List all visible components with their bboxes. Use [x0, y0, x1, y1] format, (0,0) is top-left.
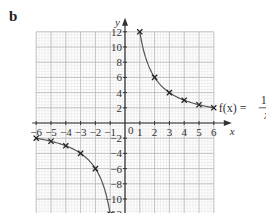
origin-label: 0 — [128, 124, 134, 136]
x-tick-label: 3 — [167, 126, 173, 138]
x-tick-label: −4 — [60, 126, 72, 138]
y-tick-label: 12 — [111, 26, 122, 38]
x-tick-label: −2 — [90, 126, 102, 138]
function-label-denominator: x — [263, 108, 266, 122]
x-tick-label: −6 — [30, 126, 42, 138]
y-tick-label: −2 — [110, 132, 122, 144]
x-tick-label: 6 — [211, 126, 217, 138]
x-tick-label: 4 — [181, 126, 187, 138]
y-tick-label: −4 — [110, 147, 122, 159]
x-tick-label: 2 — [152, 126, 158, 138]
x-tick-label: −3 — [75, 126, 87, 138]
y-tick-label: 8 — [117, 56, 123, 68]
y-tick-label: 10 — [111, 41, 123, 53]
reciprocal-function-graph: xy−6−5−4−3−2−1123456012108642−2−4−6−8−10… — [0, 0, 266, 213]
y-axis-arrow-icon — [122, 18, 128, 26]
y-tick-label: 6 — [117, 71, 123, 83]
y-tick-label: 2 — [117, 102, 123, 114]
x-axis-label: x — [229, 125, 235, 137]
y-tick-label: −6 — [110, 163, 122, 175]
x-tick-label: 5 — [196, 126, 202, 138]
y-tick-label: 4 — [117, 87, 123, 99]
x-tick-label: 1 — [137, 126, 143, 138]
x-tick-label: −5 — [45, 126, 57, 138]
curve-negative-branch — [36, 138, 110, 213]
function-label-numerator: 12 — [261, 93, 266, 107]
function-label-lhs: f(x) = — [219, 101, 247, 115]
curve-positive-branch — [140, 32, 214, 108]
y-tick-label: −8 — [110, 178, 122, 190]
